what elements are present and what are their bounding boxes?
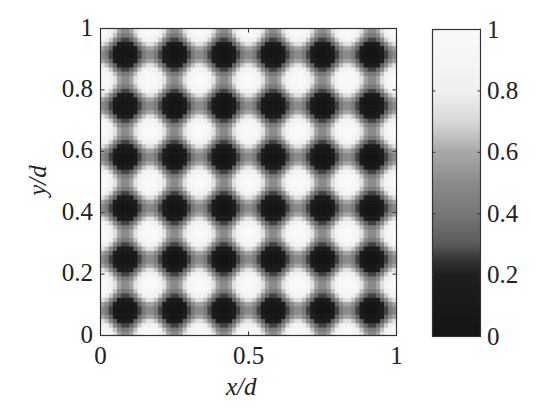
heatmap-area: [101, 29, 398, 337]
y-tick-label: 0.6: [33, 137, 93, 162]
colorbar: [433, 30, 481, 337]
colorbar-tick-label: 0: [487, 324, 500, 349]
x-axis-label: x/d: [226, 374, 257, 399]
y-tick-label: 0.4: [33, 199, 93, 224]
y-tick-label: 0.2: [33, 260, 93, 285]
colorbar-tick-label: 1: [487, 17, 500, 42]
colorbar-tick-label: 0.8: [487, 78, 518, 103]
y-axis-label: y/d: [25, 165, 50, 196]
colorbar-tick-label: 0.6: [487, 139, 518, 164]
x-tick-label: 1: [367, 343, 427, 368]
colorbar-tick-label: 0.2: [487, 262, 518, 287]
y-tick-label: 1: [33, 15, 93, 40]
colorbar-tick-label: 0.4: [487, 201, 518, 226]
x-tick-label: 0: [71, 343, 131, 368]
x-tick-label: 0.5: [219, 343, 279, 368]
y-tick-label: 0.8: [33, 76, 93, 101]
